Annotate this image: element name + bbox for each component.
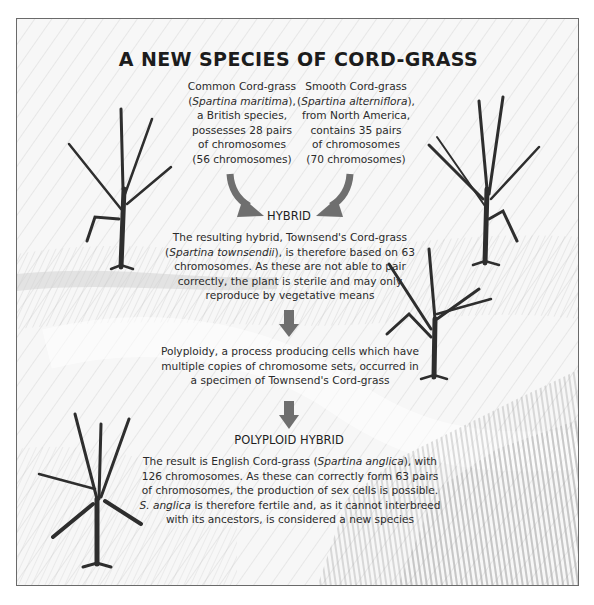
parent-right-text: Smooth Cord-grass (Spartina alterniflora…	[291, 79, 421, 167]
diagram-title: A NEW SPECIES OF CORD-GRASS	[17, 48, 579, 70]
hybrid-description: The resulting hybrid, Townsend's Cord-gr…	[159, 230, 421, 303]
parent-left-latin: (Spartina maritima),	[177, 94, 307, 109]
diagram-frame: A NEW SPECIES OF CORD-GRASS Common Cord-…	[16, 18, 579, 586]
parent-left-text: Common Cord-grass (Spartina maritima), a…	[177, 79, 307, 167]
parent-right-count: (70 chromosomes)	[291, 152, 421, 167]
polyploid-hybrid-description: The result is English Cord-grass (Sparti…	[129, 454, 451, 527]
parent-left-name: Common Cord-grass	[177, 79, 307, 94]
polyploidy-description: Polyploidy, a process producing cells wh…	[145, 344, 435, 388]
polyploid-hybrid-label: POLYPLOID HYBRID	[209, 433, 369, 447]
parent-right-latin: (Spartina alterniflora),	[291, 94, 421, 109]
parent-right-name: Smooth Cord-grass	[291, 79, 421, 94]
parent-left-count: (56 chromosomes)	[177, 152, 307, 167]
hybrid-label: HYBRID	[239, 209, 339, 223]
